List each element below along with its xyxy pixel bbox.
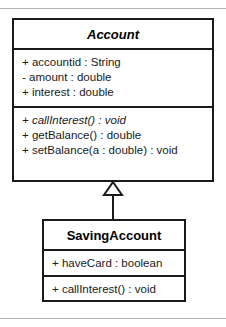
generalization-connector-savingaccount-to-account [98,178,128,223]
account-class-name: Account [14,26,212,43]
savingaccount-method-callinterest: + callInterest() : void [44,282,184,297]
savingaccount-name-compartment: SavingAccount [44,221,184,249]
savingaccount-attribute-havecard: + haveCard : boolean [44,256,184,271]
account-attribute-amount: - amount : double [14,70,212,85]
account-name-compartment: Account [14,20,212,48]
account-method-getbalance: + getBalance() : double [14,128,212,143]
hollow-triangle-arrowhead-icon [104,182,122,195]
uml-class-savingaccount[interactable]: SavingAccount + haveCard : boolean + cal… [42,219,186,302]
uml-class-account[interactable]: Account + accountid : String - amount : … [12,18,214,182]
account-attributes-compartment: + accountid : String - amount : double +… [14,48,212,106]
account-method-setbalance: + setBalance(a : double) : void [14,143,212,158]
savingaccount-methods-compartment: + callInterest() : void [44,275,184,300]
page-rule-top [0,8,226,9]
savingaccount-class-name: SavingAccount [44,227,184,244]
account-methods-compartment: + callInterest() : void + getBalance() :… [14,106,212,182]
page-rule-bottom [0,318,226,319]
savingaccount-attributes-compartment: + haveCard : boolean [44,249,184,275]
account-method-callinterest: + callInterest() : void [14,113,212,128]
account-attribute-accountid: + accountid : String [14,55,212,70]
account-attribute-interest: + interest : double [14,85,212,100]
